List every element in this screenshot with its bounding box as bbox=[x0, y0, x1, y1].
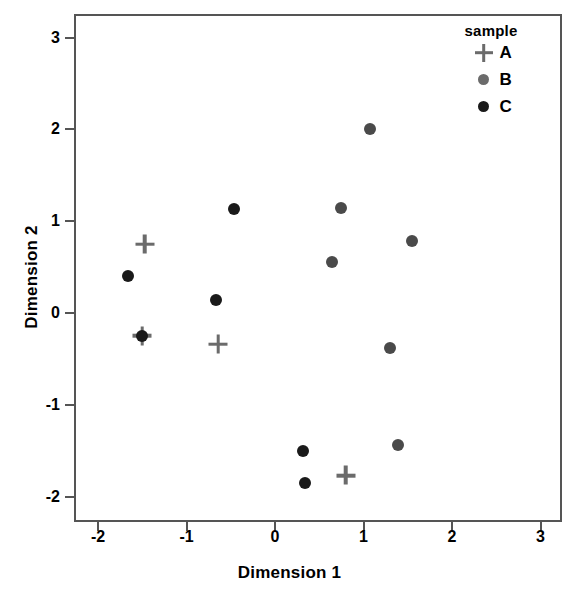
y-tick-mark bbox=[65, 404, 74, 406]
circle-marker-icon bbox=[335, 202, 347, 214]
circle-marker-icon bbox=[478, 101, 489, 112]
circle-marker-icon bbox=[384, 342, 396, 354]
legend-label-c: C bbox=[500, 97, 518, 117]
data-point-a bbox=[135, 235, 154, 254]
legend-entry-b[interactable]: B bbox=[444, 66, 554, 93]
y-tick-label: 3 bbox=[20, 29, 60, 47]
y-tick-label: -2 bbox=[20, 488, 60, 506]
data-point-a bbox=[209, 335, 228, 354]
data-point-c bbox=[228, 203, 240, 215]
circle-marker-icon bbox=[122, 270, 134, 282]
legend-entry-a[interactable]: A bbox=[444, 39, 554, 66]
legend-marker-a bbox=[471, 42, 497, 64]
y-tick-mark bbox=[65, 128, 74, 130]
legend-marker-c bbox=[471, 96, 497, 118]
plus-marker-icon bbox=[135, 235, 154, 254]
circle-marker-icon bbox=[326, 256, 338, 268]
legend: sample ABC bbox=[444, 22, 554, 120]
circle-marker-icon bbox=[228, 203, 240, 215]
y-tick-mark bbox=[65, 312, 74, 314]
y-tick-mark bbox=[65, 220, 74, 222]
circle-marker-icon bbox=[210, 294, 222, 306]
scatter-plot-figure: -2-10123 -2-10123 Dimension 1 Dimension … bbox=[0, 0, 579, 597]
y-axis-title: Dimension 2 bbox=[22, 167, 42, 387]
x-tick-label: 1 bbox=[359, 528, 368, 546]
data-point-b bbox=[406, 235, 418, 247]
plus-marker-vertical-bar bbox=[143, 235, 147, 254]
x-tick-label: 3 bbox=[536, 528, 545, 546]
legend-entries: ABC bbox=[444, 39, 554, 120]
data-point-b bbox=[326, 256, 338, 268]
data-point-b bbox=[364, 123, 376, 135]
plus-marker-vertical-bar bbox=[482, 44, 486, 62]
plus-marker-icon bbox=[475, 44, 493, 62]
plus-marker-icon bbox=[336, 466, 355, 485]
circle-marker-icon bbox=[392, 439, 404, 451]
data-point-b bbox=[335, 202, 347, 214]
x-axis-title: Dimension 1 bbox=[0, 563, 579, 583]
plus-marker-vertical-bar bbox=[217, 335, 221, 354]
circle-marker-icon bbox=[297, 445, 309, 457]
y-tick-label: -1 bbox=[20, 396, 60, 414]
legend-label-a: A bbox=[500, 43, 518, 63]
y-tick-mark bbox=[65, 496, 74, 498]
data-point-b bbox=[392, 439, 404, 451]
data-point-c bbox=[210, 294, 222, 306]
data-point-c bbox=[122, 270, 134, 282]
legend-label-b: B bbox=[500, 70, 518, 90]
data-point-c bbox=[136, 330, 148, 342]
circle-marker-icon bbox=[299, 477, 311, 489]
y-tick-mark bbox=[65, 37, 74, 39]
circle-marker-icon bbox=[406, 235, 418, 247]
circle-marker-icon bbox=[364, 123, 376, 135]
legend-title: sample bbox=[444, 22, 554, 39]
plus-marker-vertical-bar bbox=[344, 466, 348, 485]
x-tick-label: 2 bbox=[448, 528, 457, 546]
x-tick-label: 0 bbox=[271, 528, 280, 546]
legend-entry-c[interactable]: C bbox=[444, 93, 554, 120]
data-point-a bbox=[336, 466, 355, 485]
data-point-c bbox=[299, 477, 311, 489]
legend-marker-b bbox=[471, 69, 497, 91]
data-point-b bbox=[384, 342, 396, 354]
x-tick-label: -2 bbox=[91, 528, 105, 546]
plus-marker-icon bbox=[209, 335, 228, 354]
circle-marker-icon bbox=[478, 74, 489, 85]
x-tick-label: -1 bbox=[179, 528, 193, 546]
data-point-c bbox=[297, 445, 309, 457]
circle-marker-icon bbox=[136, 330, 148, 342]
y-tick-label: 2 bbox=[20, 120, 60, 138]
